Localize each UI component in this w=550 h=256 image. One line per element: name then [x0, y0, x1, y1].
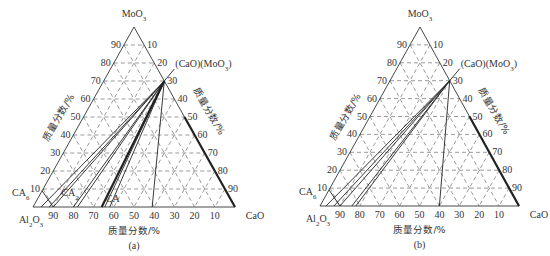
- bottom-tick-label: 90: [335, 209, 345, 220]
- vertex-label-left: Al2O3: [306, 213, 331, 228]
- grid-line: [94, 99, 155, 207]
- tie-line: [326, 81, 450, 206]
- vertex-label-right: CaO: [246, 210, 264, 221]
- left-tick-label: 70: [377, 75, 387, 86]
- grid-line: [370, 117, 420, 207]
- left-tick-label: 90: [397, 39, 407, 50]
- right-tick-label: 80: [218, 165, 228, 176]
- phase-label-ca2: CA2: [61, 187, 79, 202]
- grid-line: [499, 188, 509, 206]
- right-tick-label: 70: [208, 147, 218, 158]
- right-tick-label: 10: [433, 39, 443, 50]
- phase-label-ca6: CA6: [299, 186, 317, 201]
- bottom-tick-label: 60: [109, 210, 119, 221]
- vertex-label-left: Al2O3: [19, 214, 44, 229]
- tie-line: [41, 81, 164, 207]
- bottom-tick-label: 10: [494, 209, 504, 220]
- grid-line: [459, 152, 489, 206]
- right-tick-label: 20: [443, 57, 453, 68]
- right-tick-label: 50: [188, 111, 198, 122]
- bottom-tick-label: 50: [129, 210, 139, 221]
- bottom-tick-label: 40: [434, 209, 444, 220]
- left-tick-label: 30: [337, 146, 347, 157]
- bottom-tick-label: 10: [210, 210, 220, 221]
- left-tick-label: 50: [357, 111, 367, 122]
- grid-line: [104, 81, 175, 207]
- bottom-axis-title: 质量分数/%: [108, 225, 160, 236]
- right-tick-label: 60: [198, 129, 208, 140]
- left-tick-label: 20: [40, 165, 50, 176]
- compound-label: (CaO)(MoO3): [461, 58, 517, 73]
- tie-line: [110, 81, 165, 207]
- phase-label-ca: CA: [106, 193, 121, 204]
- right-tick-label: 40: [463, 93, 473, 104]
- bottom-axis-title: 质量分数/%: [393, 224, 445, 235]
- bottom-tick-label: 80: [68, 210, 78, 221]
- bottom-tick-label: 60: [395, 209, 405, 220]
- left-tick-label: 40: [60, 129, 70, 140]
- right-tick-label: 30: [167, 75, 177, 86]
- right-tick-label: 90: [228, 183, 238, 194]
- grid-line: [53, 45, 144, 207]
- left-tick-label: 70: [91, 75, 101, 86]
- left-tick-label: 10: [30, 183, 40, 194]
- bottom-tick-label: 30: [169, 210, 179, 221]
- figure-caption: (b): [414, 239, 426, 251]
- grid-line: [420, 117, 470, 207]
- bottom-tick-label: 70: [89, 210, 99, 221]
- grid-line: [350, 152, 380, 206]
- bottom-tick-label: 90: [48, 210, 58, 221]
- left-tick-label: 90: [111, 39, 121, 50]
- grid-line: [380, 81, 450, 206]
- grid-line: [215, 189, 225, 207]
- bottom-tick-label: 50: [415, 209, 425, 220]
- ca6-line: [329, 190, 340, 206]
- right-tick-label: 40: [177, 93, 187, 104]
- bottom-tick-label: 20: [190, 210, 200, 221]
- right-tick-label: 90: [512, 182, 522, 193]
- left-tick-label: 40: [347, 128, 357, 139]
- left-tick-label: 60: [367, 93, 377, 104]
- bottom-tick-label: 30: [454, 209, 464, 220]
- tie-line: [439, 81, 449, 206]
- bottom-tick-label: 80: [355, 209, 365, 220]
- phase-label-ca6: CA6: [12, 187, 30, 202]
- compound-label: (CaO)(MoO3): [175, 58, 231, 73]
- left-tick-label: 80: [101, 57, 111, 68]
- vertex-label-top: MoO3: [408, 8, 433, 23]
- grid-line: [174, 153, 204, 207]
- left-tick-label: 30: [50, 147, 60, 158]
- left-tick-label: 20: [327, 164, 337, 175]
- right-tick-label: 70: [492, 146, 502, 157]
- left-tick-label: 60: [81, 93, 91, 104]
- right-tick-label: 50: [473, 111, 483, 122]
- left-tick-label: 50: [71, 111, 81, 122]
- left-tick-label: 80: [387, 57, 397, 68]
- left-tick-label: 10: [317, 182, 327, 193]
- grid-line: [124, 45, 215, 207]
- grid-line: [410, 45, 499, 206]
- right-tick-label: 10: [147, 39, 157, 50]
- vertex-label-top: MoO3: [122, 8, 147, 23]
- right-tick-label: 60: [482, 128, 492, 139]
- right-tick-label: 80: [502, 164, 512, 175]
- ternary-diagrams: (CaO)(MoO3)MoO3Al2O3CaO90109080208070307…: [0, 0, 550, 256]
- vertex-label-right: CaO: [530, 209, 548, 220]
- bottom-tick-label: 40: [149, 210, 159, 221]
- bottom-tick-label: 70: [375, 209, 385, 220]
- right-tick-label: 30: [453, 75, 463, 86]
- bottom-tick-label: 20: [474, 209, 484, 220]
- right-tick-label: 20: [157, 57, 167, 68]
- figure-caption: (a): [128, 240, 139, 252]
